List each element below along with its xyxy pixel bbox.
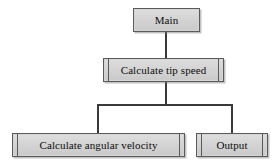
node-calculate-tip-speed-label: Calculate tip speed xyxy=(121,65,207,76)
library-module-bar-right-icon xyxy=(179,134,180,156)
node-calculate-angular-velocity[interactable]: Calculate angular velocity xyxy=(12,133,185,157)
structure-chart-diagram: Main Calculate tip speed Calculate angul… xyxy=(0,0,278,163)
node-calculate-tip-speed[interactable]: Calculate tip speed xyxy=(103,58,224,82)
connector-main-to-calculate-tip-speed xyxy=(165,31,167,59)
connector-bus-to-output xyxy=(231,104,233,134)
connector-calculate-tip-speed-to-bus xyxy=(165,81,167,106)
node-calculate-angular-velocity-label: Calculate angular velocity xyxy=(39,140,157,151)
node-main[interactable]: Main xyxy=(133,8,200,32)
library-module-bar-right-icon xyxy=(262,134,263,156)
connector-bus-to-calculate-angular-velocity xyxy=(97,104,99,134)
node-output-label: Output xyxy=(216,140,247,151)
library-module-bar-left-icon xyxy=(108,59,109,81)
connector-horizontal-bus xyxy=(97,104,233,106)
node-main-label: Main xyxy=(155,15,179,26)
library-module-bar-left-icon xyxy=(201,134,202,156)
node-output[interactable]: Output xyxy=(196,133,268,157)
library-module-bar-left-icon xyxy=(17,134,18,156)
library-module-bar-right-icon xyxy=(218,59,219,81)
